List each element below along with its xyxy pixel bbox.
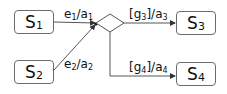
state-s3-base: S bbox=[187, 13, 198, 33]
state-s2[interactable]: S2 bbox=[14, 60, 54, 84]
state-s1[interactable]: S1 bbox=[14, 10, 54, 34]
choice-diamond bbox=[96, 14, 124, 32]
action-name: a bbox=[155, 60, 162, 74]
guard-sub: 3 bbox=[141, 13, 146, 22]
action-name: a bbox=[81, 7, 88, 21]
action-name: a bbox=[155, 7, 162, 21]
transition-label-g3-a3: [g3]/a3 bbox=[129, 8, 168, 22]
action-sub: 3 bbox=[163, 13, 168, 22]
event-sub: 1 bbox=[71, 13, 76, 22]
transition-label-e1-a1: e1/a1 bbox=[64, 8, 93, 22]
state-s4-base: S bbox=[187, 64, 198, 84]
action-sub: 2 bbox=[88, 63, 93, 72]
state-s1-sub: 1 bbox=[36, 19, 43, 32]
event-sub: 2 bbox=[71, 63, 76, 72]
guard-sub: 4 bbox=[141, 66, 146, 75]
state-s2-base: S bbox=[25, 62, 36, 82]
state-s4-sub: 4 bbox=[198, 71, 205, 84]
action-sub: 4 bbox=[163, 66, 168, 75]
transition-label-g4-a4: [g4]/a4 bbox=[129, 61, 168, 75]
action-name: a bbox=[81, 57, 88, 71]
action-sub: 1 bbox=[88, 13, 93, 22]
state-s4[interactable]: S4 bbox=[176, 62, 216, 86]
state-s2-sub: 2 bbox=[36, 69, 43, 82]
state-s3[interactable]: S3 bbox=[176, 11, 216, 35]
state-s1-base: S bbox=[25, 12, 36, 32]
transition-label-e2-a2: e2/a2 bbox=[64, 58, 93, 72]
state-s3-sub: 3 bbox=[198, 20, 205, 33]
transition-s1-line bbox=[54, 22, 95, 23]
